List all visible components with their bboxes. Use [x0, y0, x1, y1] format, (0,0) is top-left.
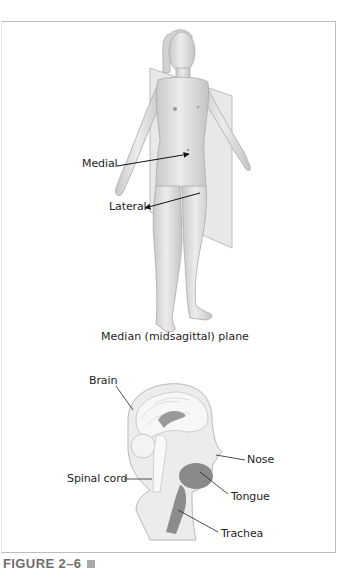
head-cross-section	[128, 384, 222, 540]
figure-number: FIGURE 2–6	[3, 556, 81, 571]
label-nose: Nose	[247, 453, 274, 466]
figure-label: FIGURE 2–6	[3, 556, 95, 571]
label-lateral: Lateral	[109, 200, 147, 213]
label-spinal-cord: Spinal cord	[67, 472, 127, 485]
label-trachea: Trachea	[221, 527, 263, 540]
square-icon	[87, 560, 95, 568]
label-medial: Medial	[82, 157, 118, 170]
anatomy-illustration	[0, 0, 350, 579]
plane-caption: Median (midsagittal) plane	[0, 330, 350, 343]
label-brain: Brain	[89, 374, 117, 387]
label-tongue: Tongue	[231, 490, 270, 503]
